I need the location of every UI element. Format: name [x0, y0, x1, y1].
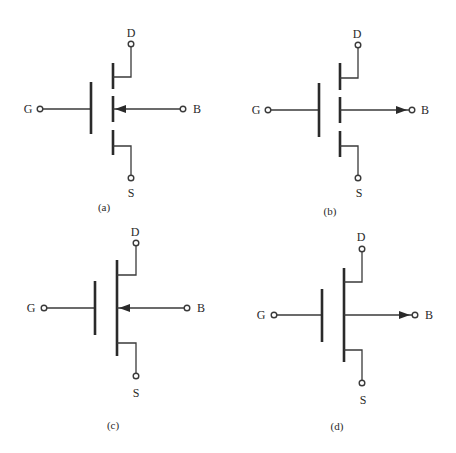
- source-terminal: [128, 175, 134, 181]
- subfigure-caption: (d): [331, 420, 344, 433]
- drain-lead: [344, 252, 362, 282]
- drain-terminal: [359, 246, 365, 252]
- symbol-c: DSGB(c): [27, 225, 205, 432]
- bulk-terminal: [184, 305, 190, 311]
- subfigure-caption: (a): [98, 201, 111, 214]
- drain-lead: [113, 47, 131, 77]
- gate-label: G: [27, 301, 36, 315]
- bulk-terminal: [412, 312, 418, 318]
- bulk-label: B: [193, 102, 201, 116]
- source-label: S: [360, 393, 367, 407]
- source-terminal: [133, 373, 139, 379]
- gate-terminal: [37, 106, 43, 112]
- bulk-label: B: [425, 308, 433, 322]
- source-label: S: [133, 386, 140, 400]
- gate-label: G: [252, 103, 261, 117]
- gate-terminal: [271, 312, 277, 318]
- symbol-b: DSGB(b): [252, 27, 429, 218]
- drain-label: D: [131, 225, 140, 239]
- source-label: S: [128, 186, 135, 200]
- gate-label: G: [24, 102, 33, 116]
- subfigure-caption: (b): [324, 205, 337, 218]
- figure-svg: DSGB(a) DSGB(b) DSGB(c) DSGB(d): [0, 0, 456, 453]
- arrow-left-icon: [115, 105, 126, 113]
- drain-terminal: [355, 42, 361, 48]
- drain-label: D: [357, 230, 366, 244]
- source-label: S: [356, 186, 363, 200]
- bulk-terminal: [180, 106, 186, 112]
- gate-terminal: [265, 107, 271, 113]
- drain-terminal: [133, 240, 139, 246]
- drain-terminal: [128, 41, 134, 47]
- symbol-d: DSGB(d): [257, 230, 433, 433]
- source-terminal: [355, 175, 361, 181]
- source-terminal: [359, 380, 365, 386]
- source-lead: [344, 350, 362, 380]
- bulk-label: B: [421, 103, 429, 117]
- source-lead: [340, 146, 358, 175]
- subfigure-caption: (c): [107, 419, 120, 432]
- arrow-right-icon: [396, 106, 407, 114]
- symbol-a: DSGB(a): [24, 26, 201, 214]
- drain-label: D: [353, 27, 362, 41]
- mosfet-symbols-figure: DSGB(a) DSGB(b) DSGB(c) DSGB(d): [0, 0, 456, 453]
- drain-lead: [340, 48, 358, 78]
- arrow-left-icon: [119, 304, 130, 312]
- gate-terminal: [41, 305, 47, 311]
- source-lead: [113, 146, 131, 175]
- arrow-right-icon: [399, 311, 410, 319]
- bulk-terminal: [409, 107, 415, 113]
- drain-label: D: [127, 26, 136, 40]
- bulk-label: B: [197, 301, 205, 315]
- source-lead: [117, 343, 136, 373]
- gate-label: G: [257, 308, 266, 322]
- drain-lead: [117, 246, 136, 275]
